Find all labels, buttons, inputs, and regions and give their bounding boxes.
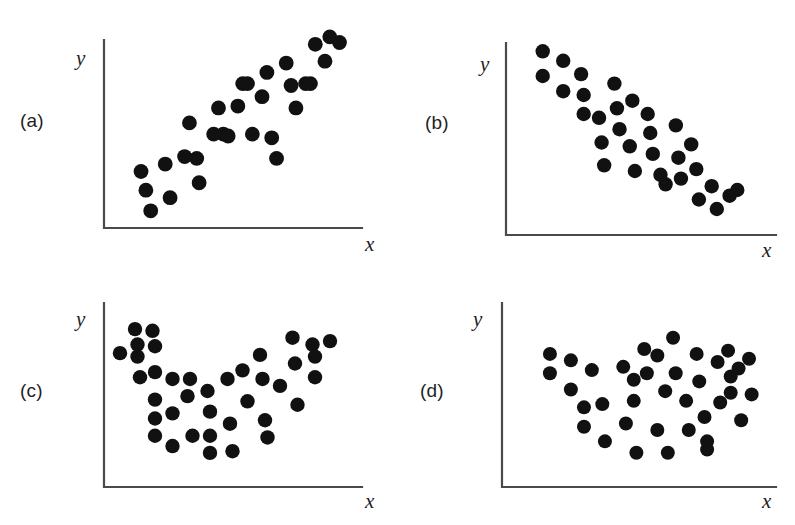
scatter-point [308, 37, 323, 52]
scatter-point [556, 54, 570, 68]
scatter-point [734, 413, 748, 427]
scatter-point [221, 129, 236, 144]
scatter-point [264, 130, 279, 145]
scatter-point [203, 446, 217, 460]
scatter-point [113, 346, 127, 360]
scatter-point [627, 394, 641, 408]
scatter-point [128, 322, 142, 336]
scatter-point [240, 76, 255, 91]
scatter-point [577, 400, 591, 414]
scatter-point [220, 372, 234, 386]
panel-b-points [398, 0, 795, 265]
scatter-point [183, 372, 197, 386]
scatter-point [148, 365, 162, 379]
scatter-point [592, 111, 606, 125]
scatter-point [682, 423, 696, 437]
scatter-point [612, 122, 626, 136]
scatter-point [692, 374, 706, 388]
scatter-point [597, 158, 611, 172]
scatter-point [595, 397, 609, 411]
scatter-point [730, 183, 744, 197]
panel-c: (c) y x [0, 265, 398, 525]
scatter-point [318, 54, 333, 69]
scatter-point [610, 101, 624, 115]
scatter-point [245, 127, 260, 142]
scatter-point [698, 410, 712, 424]
scatter-point [211, 101, 226, 116]
scatter-point [288, 356, 302, 370]
scatter-point [303, 76, 318, 91]
scatter-point [289, 101, 304, 116]
scatter-point [203, 404, 217, 418]
scatter-point [134, 164, 149, 179]
scatter-point [625, 94, 639, 108]
scatter-point [556, 84, 570, 98]
scatter-point [607, 76, 621, 90]
scatter-point [323, 334, 337, 348]
scatter-point [145, 324, 159, 338]
scatter-point [627, 373, 641, 387]
scatter-point [637, 342, 651, 356]
scatter-point [576, 107, 590, 121]
scatter-point [182, 115, 197, 130]
scatter-point [574, 67, 588, 81]
scatter-point [711, 355, 725, 369]
scatter-point [658, 177, 672, 191]
scatter-point [230, 99, 245, 114]
scatter-point [598, 434, 612, 448]
scatter-point [223, 416, 237, 430]
scatter-point [185, 429, 199, 443]
scatter-point [259, 65, 274, 80]
scatter-plot-figure: (a) y x (b) y x (c) y x (d) y x [0, 0, 795, 525]
panel-a-points [0, 0, 398, 265]
scatter-point [564, 383, 578, 397]
panel-a: (a) y x [0, 0, 398, 265]
scatter-point [692, 192, 706, 206]
scatter-point [165, 372, 179, 386]
scatter-point [713, 395, 727, 409]
scatter-point [646, 147, 660, 161]
scatter-point [724, 386, 738, 400]
scatter-point [225, 444, 239, 458]
scatter-point [273, 379, 287, 393]
scatter-point [138, 183, 153, 198]
scatter-point [148, 339, 162, 353]
scatter-point [258, 413, 272, 427]
scatter-point [163, 190, 178, 205]
panel-b: (b) y x [398, 0, 795, 265]
scatter-point [674, 171, 688, 185]
scatter-point [616, 360, 630, 374]
scatter-point [536, 44, 550, 58]
scatter-point [650, 423, 664, 437]
scatter-point [203, 429, 217, 443]
scatter-point [148, 429, 162, 443]
scatter-point [704, 179, 718, 193]
scatter-point [130, 337, 144, 351]
scatter-point [235, 363, 249, 377]
scatter-point [700, 442, 714, 456]
scatter-point [305, 337, 319, 351]
scatter-point [658, 384, 672, 398]
scatter-point [284, 78, 299, 93]
scatter-point [623, 139, 637, 153]
scatter-point [189, 151, 204, 166]
scatter-point [742, 352, 756, 366]
scatter-point [640, 107, 654, 121]
scatter-point [679, 394, 693, 408]
scatter-point [290, 398, 304, 412]
scatter-point [255, 372, 269, 386]
scatter-point [732, 361, 746, 375]
panel-d-points [398, 265, 795, 525]
scatter-point [643, 126, 657, 140]
scatter-point [165, 406, 179, 420]
scatter-point [269, 151, 284, 166]
panel-c-points [0, 265, 398, 525]
scatter-point [576, 88, 590, 102]
panel-d: (d) y x [398, 265, 795, 525]
scatter-point [260, 430, 274, 444]
scatter-point [669, 366, 683, 380]
scatter-point [285, 330, 299, 344]
scatter-point [666, 331, 680, 345]
scatter-point [255, 89, 270, 104]
scatter-point [543, 347, 557, 361]
